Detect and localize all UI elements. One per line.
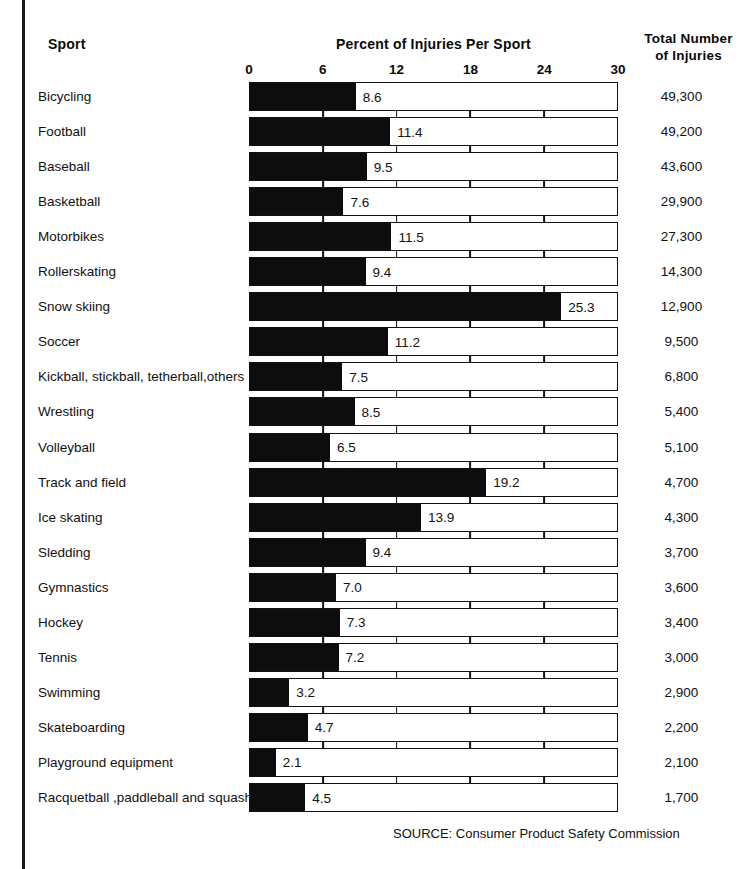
bar-value-label: 11.5 — [398, 229, 423, 244]
bar-value-label: 7.5 — [349, 369, 368, 384]
total-injuries-value: 3,600 — [618, 573, 745, 602]
sport-label: Ice skating — [38, 503, 103, 532]
bar-track — [249, 292, 618, 321]
sport-label: Racquetball ,paddleball and squash — [38, 783, 252, 812]
total-injuries-value: 5,400 — [618, 397, 745, 426]
bar-track — [249, 713, 618, 742]
bar-value-label: 3.2 — [296, 685, 315, 700]
sport-label: Tennis — [38, 643, 77, 672]
bar-track — [249, 222, 618, 251]
bar-track — [249, 643, 618, 672]
bar-fill — [250, 714, 308, 741]
bar-fill — [250, 784, 305, 811]
bar-value-label: 9.5 — [374, 159, 393, 174]
total-injuries-value: 49,300 — [618, 82, 745, 111]
bar-track — [249, 257, 618, 286]
bar-fill — [250, 434, 330, 461]
sport-label: Motorbikes — [38, 222, 104, 251]
bar-value-label: 7.0 — [343, 580, 362, 595]
bar-fill — [250, 153, 367, 180]
bar-row: 4.5 — [249, 783, 618, 812]
total-injuries-value: 49,200 — [618, 117, 745, 146]
bar-value-label: 25.3 — [568, 299, 594, 314]
bar-row: 11.4 — [249, 117, 618, 146]
bar-track — [249, 468, 618, 497]
sport-label: Track and field — [38, 468, 126, 497]
bar-track — [249, 82, 618, 111]
bar-value-label: 7.3 — [347, 615, 366, 630]
bar-track — [249, 187, 618, 216]
column-header-total-line1: Total Number — [644, 31, 732, 46]
sport-label: Volleyball — [38, 433, 95, 462]
bar-value-label: 13.9 — [428, 510, 454, 525]
bar-row: 9.4 — [249, 257, 618, 286]
sport-label-column: BicyclingFootballBaseballBasketballMotor… — [0, 82, 249, 818]
bar-fill — [250, 83, 356, 110]
sport-label: Sledding — [38, 538, 91, 567]
bar-row: 3.2 — [249, 678, 618, 707]
total-injuries-value: 3,400 — [618, 608, 745, 637]
bar-value-label: 9.4 — [373, 264, 392, 279]
bar-track — [249, 748, 618, 777]
source-note: SOURCE: Consumer Product Safety Commissi… — [393, 826, 680, 841]
sport-label: Skateboarding — [38, 713, 125, 742]
bar-fill — [250, 644, 339, 671]
bar-track — [249, 433, 618, 462]
bar-track — [249, 117, 618, 146]
bar-fill — [250, 398, 355, 425]
sport-label: Wrestling — [38, 397, 94, 426]
total-injuries-value: 2,900 — [618, 678, 745, 707]
bar-row: 25.3 — [249, 292, 618, 321]
sport-label: Basketball — [38, 187, 100, 216]
bar-fill — [250, 469, 486, 496]
column-header-percent: Percent of Injuries Per Sport — [249, 36, 618, 52]
bar-row: 7.2 — [249, 643, 618, 672]
bar-value-label: 11.4 — [397, 124, 422, 139]
bar-track — [249, 327, 618, 356]
column-header-sport: Sport — [48, 36, 86, 52]
bar-fill — [250, 749, 276, 776]
sport-label: Snow skiing — [38, 292, 110, 321]
total-injuries-value: 27,300 — [618, 222, 745, 251]
bar-fill — [250, 118, 390, 145]
axis-tick-label-24: 24 — [537, 62, 552, 77]
total-injuries-column: 49,30049,20043,60029,90027,30014,30012,9… — [618, 82, 755, 818]
x-axis: 0612182430 — [249, 62, 618, 80]
bar-value-label: 6.5 — [337, 440, 356, 455]
bar-row: 11.2 — [249, 327, 618, 356]
bar-value-label: 11.2 — [395, 334, 420, 349]
bar-row: 2.1 — [249, 748, 618, 777]
bar-track — [249, 152, 618, 181]
bar-value-label: 8.6 — [363, 89, 382, 104]
bar-row: 7.3 — [249, 608, 618, 637]
axis-tick-label-12: 12 — [389, 62, 404, 77]
bar-fill — [250, 609, 340, 636]
bar-fill — [250, 188, 343, 215]
total-injuries-value: 29,900 — [618, 187, 745, 216]
bar-track — [249, 538, 618, 567]
total-injuries-value: 5,100 — [618, 433, 745, 462]
total-injuries-value: 43,600 — [618, 152, 745, 181]
bar-fill — [250, 504, 421, 531]
bar-value-label: 4.7 — [315, 720, 334, 735]
column-header-total: Total Number of Injuries — [622, 30, 755, 64]
bar-fill — [250, 258, 366, 285]
sport-label: Baseball — [38, 152, 90, 181]
bar-track — [249, 783, 618, 812]
bar-track — [249, 608, 618, 637]
sport-label: Gymnastics — [38, 573, 109, 602]
bar-row: 8.5 — [249, 397, 618, 426]
bar-value-label: 7.6 — [350, 194, 369, 209]
bar-fill — [250, 293, 561, 320]
bar-row: 7.0 — [249, 573, 618, 602]
total-injuries-value: 12,900 — [618, 292, 745, 321]
total-injuries-value: 14,300 — [618, 257, 745, 286]
total-injuries-value: 4,300 — [618, 503, 745, 532]
total-injuries-value: 1,700 — [618, 783, 745, 812]
bar-row: 6.5 — [249, 433, 618, 462]
total-injuries-value: 4,700 — [618, 468, 745, 497]
axis-tick-label-0: 0 — [245, 62, 253, 77]
bar-row: 7.6 — [249, 187, 618, 216]
total-injuries-value: 3,000 — [618, 643, 745, 672]
bar-track — [249, 573, 618, 602]
